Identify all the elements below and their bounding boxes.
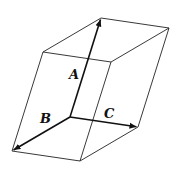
label-a: A: [67, 67, 79, 82]
edge-right-vertical: [138, 28, 169, 127]
edge-bottom-front-left: [12, 151, 80, 161]
parallelepiped-edges: [12, 18, 169, 161]
vectors: [14, 20, 137, 151]
label-b: B: [39, 111, 51, 126]
label-c: C: [104, 106, 115, 121]
edge-top-right: [101, 18, 169, 28]
parallelepiped-diagram: A B C: [0, 0, 181, 170]
edge-top-front-left: [43, 52, 111, 62]
